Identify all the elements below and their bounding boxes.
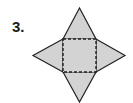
left-triangle-face <box>33 39 63 72</box>
top-triangle-face <box>63 8 96 39</box>
right-triangle-face <box>96 39 125 72</box>
bottom-triangle-face <box>63 72 96 102</box>
square-base-face <box>63 39 96 72</box>
pyramid-net-figure <box>0 0 133 103</box>
